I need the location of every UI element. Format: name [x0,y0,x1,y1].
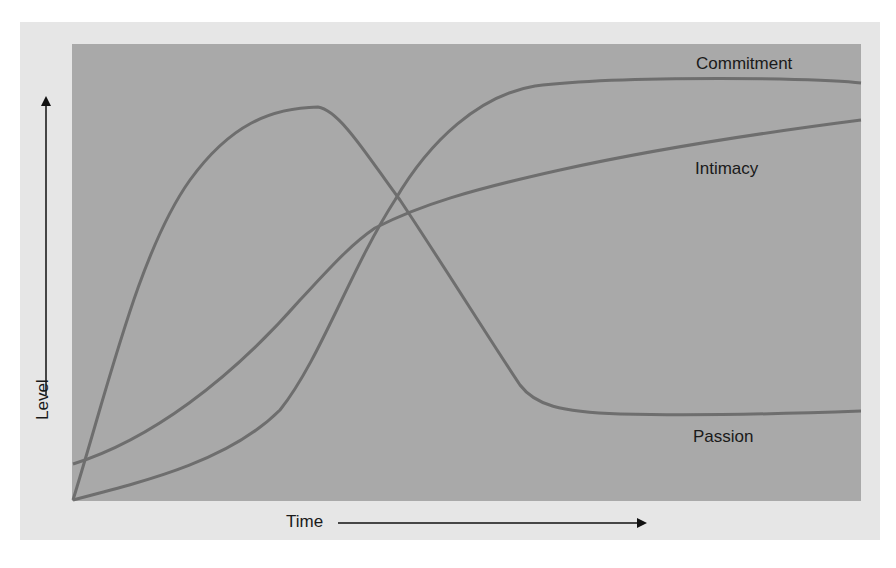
intimacy-label: Intimacy [695,159,758,179]
passion-label: Passion [693,427,753,447]
y-axis-label: Level [33,379,53,420]
x-axis-label: Time [286,512,323,532]
commitment-label: Commitment [696,54,792,74]
chart-lines [0,0,896,568]
